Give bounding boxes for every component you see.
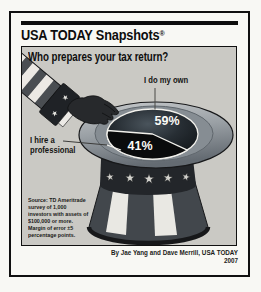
infographic-panel: 59% 41% [21,46,237,246]
credit-byline: By Jae Yang and Dave Merrill, USA TODAY [111,249,238,257]
credit-year: 2007 [111,257,238,265]
masthead-rule [21,21,238,25]
callout-own: I do my own [144,76,200,86]
snapshot-page: USA TODAY Snapshots® [0,0,261,292]
hand [68,96,119,124]
masthead: USA TODAY Snapshots® [21,27,164,43]
credit-line: By Jae Yang and Dave Merrill, USA TODAY … [111,249,238,264]
chart-title: Who prepares your tax return? [28,50,168,64]
callout-professional: I hire a professional [30,136,75,155]
outer-frame: USA TODAY Snapshots® [9,11,250,277]
masthead-brand: USA TODAY Snapshots [21,27,159,43]
source-note: Source: TD Ameritrade survey of 1,000 in… [28,197,91,238]
pie-value-professional: 41% [127,139,152,153]
top-hat-body [89,159,208,243]
pie-value-own: 59% [154,114,179,128]
registered-mark-icon: ® [159,29,164,38]
